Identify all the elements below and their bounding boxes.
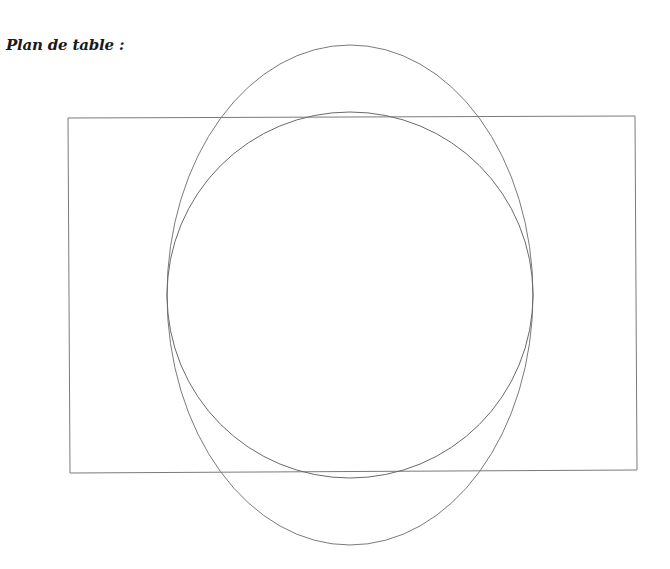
room-outline bbox=[68, 116, 637, 473]
table-circle bbox=[167, 112, 533, 478]
outer-ellipse bbox=[167, 45, 533, 545]
seating-plan-diagram bbox=[0, 0, 670, 569]
